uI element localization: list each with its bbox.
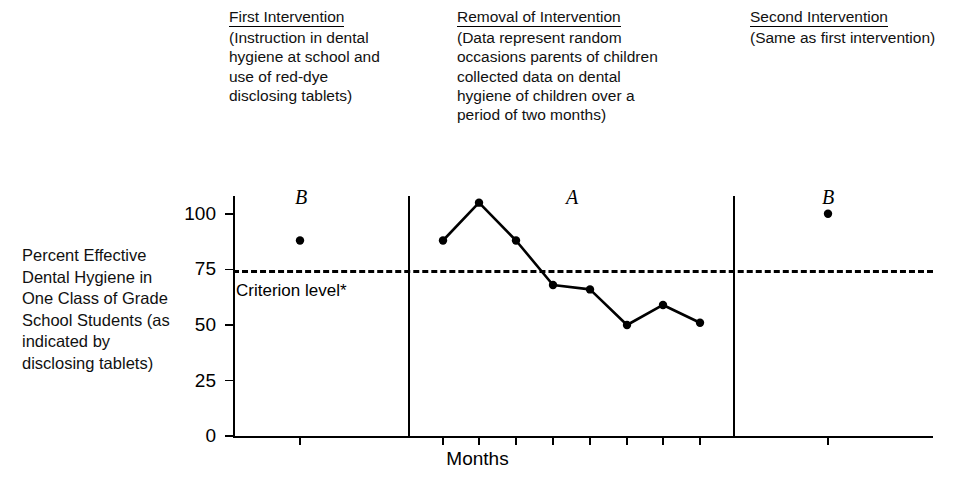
data-point bbox=[586, 285, 594, 293]
data-point bbox=[696, 319, 704, 327]
y-axis-title: Percent Effective Dental Hygiene in One … bbox=[22, 245, 172, 374]
data-point bbox=[439, 236, 447, 244]
chart-figure: First Intervention (Instruction in denta… bbox=[0, 0, 955, 480]
data-point bbox=[475, 198, 483, 206]
plot-area: 0255075100 Criterion level* B A B Percen… bbox=[0, 0, 955, 480]
data-series bbox=[0, 0, 955, 480]
data-point bbox=[512, 236, 520, 244]
data-point bbox=[296, 236, 304, 244]
data-point bbox=[824, 210, 832, 218]
data-point bbox=[659, 301, 667, 309]
x-axis-title: Months bbox=[0, 448, 955, 469]
data-point bbox=[623, 321, 631, 329]
data-point bbox=[549, 281, 557, 289]
